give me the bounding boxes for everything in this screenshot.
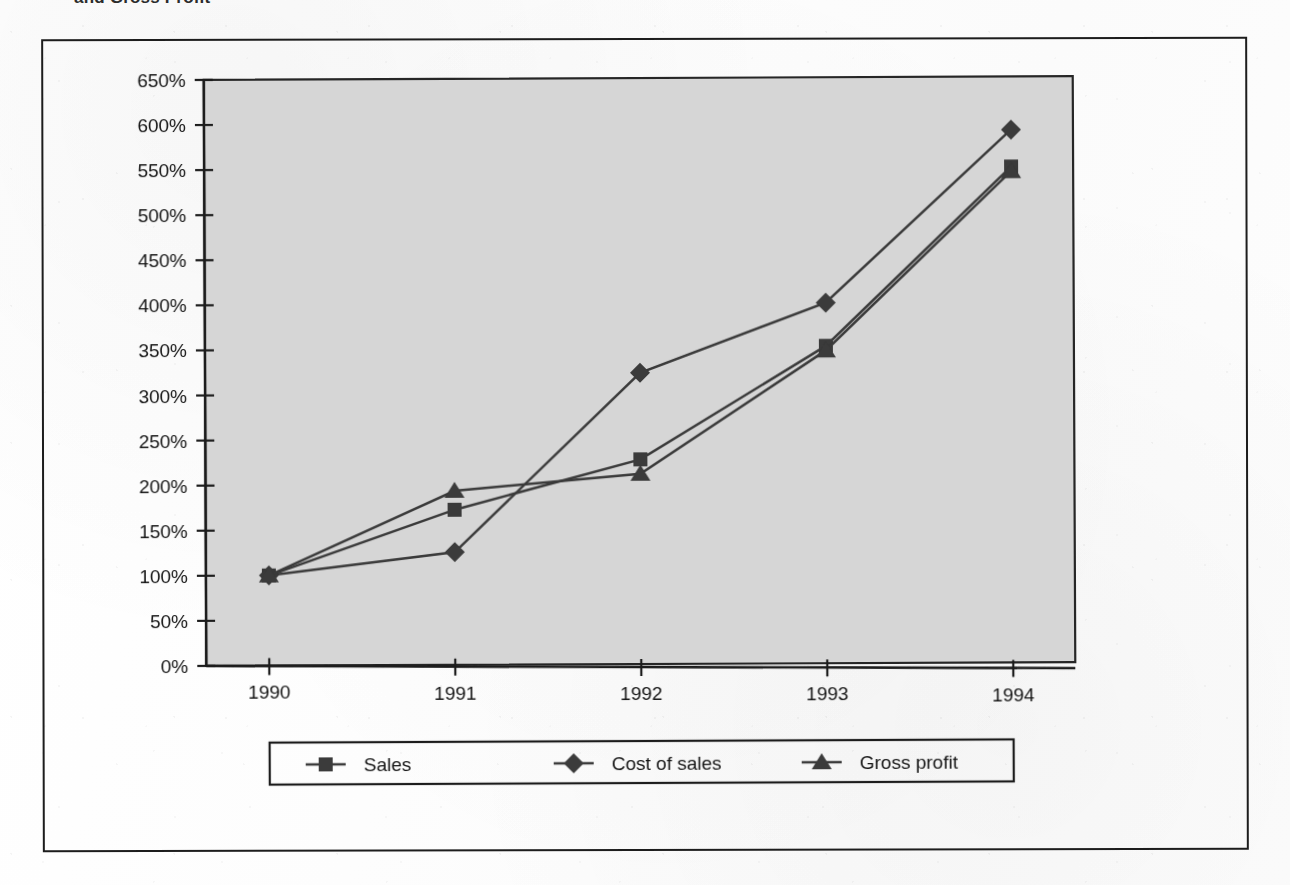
figure-outer-frame	[41, 37, 1249, 853]
page-heading-text: and Gross Profit	[74, 0, 494, 9]
page-heading-clipped: and Gross Profit	[74, 0, 494, 9]
